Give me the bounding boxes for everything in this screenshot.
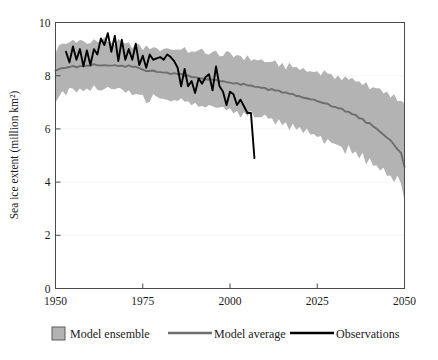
chart-legend: Model ensembleModel averageObservations (52, 327, 400, 341)
y-tick-label: 10 (39, 17, 51, 29)
chart-canvas: 19501975200020252050 0246810 Sea ice ext… (0, 0, 438, 360)
y-axis-title: Sea ice extent (million km²) (8, 91, 21, 220)
x-tick-label: 1975 (131, 295, 154, 307)
x-tick-label: 2000 (219, 295, 242, 307)
legend-label: Observations (336, 327, 400, 341)
y-tick-label: 0 (45, 283, 51, 295)
y-tick-label: 2 (45, 229, 51, 241)
y-tick-label: 8 (45, 70, 51, 82)
legend-label: Model average (214, 327, 286, 341)
x-tick-label: 2025 (306, 295, 329, 307)
sea-ice-extent-figure: 19501975200020252050 0246810 Sea ice ext… (0, 0, 438, 360)
x-tick-label: 1950 (44, 295, 67, 307)
y-tick-label: 6 (45, 123, 51, 135)
legend-label: Model ensemble (70, 327, 150, 341)
y-tick-label: 4 (45, 176, 51, 188)
x-tick-label: 2050 (393, 295, 416, 307)
legend-swatch-icon (52, 327, 65, 340)
